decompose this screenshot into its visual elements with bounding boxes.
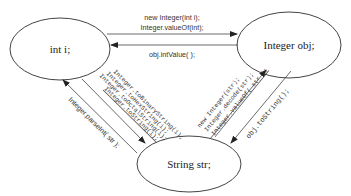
edge-int-to-integer: new Integer(int i); Integer.valueOf(int)… <box>107 13 237 34</box>
edge-label-line: Integer.decode(str); <box>203 71 255 133</box>
edge-label-line: obj.intValue( ); <box>149 50 195 59</box>
edge-label-line: obj.toString(); <box>244 87 290 141</box>
node-integer: Integer obj; <box>237 12 341 78</box>
edge-label-line: new Integer(int i); <box>144 13 200 22</box>
edge-label-line: Integer.toHexString(i); <box>105 70 171 135</box>
edge-label-line: Integer.valueOf(int); <box>140 23 203 32</box>
node-int-label: int i; <box>50 43 70 55</box>
node-string-label: String str; <box>167 158 211 170</box>
node-string: String str; <box>137 136 241 192</box>
conversion-diagram: int i; Integer obj; String str; new Inte… <box>0 0 351 196</box>
edge-integer-to-int: obj.intValue( ); <box>111 45 238 59</box>
node-integer-label: Integer obj; <box>263 39 314 51</box>
node-int: int i; <box>10 18 110 80</box>
edge-label-line: Integer.parseInt( str ); <box>67 95 122 150</box>
